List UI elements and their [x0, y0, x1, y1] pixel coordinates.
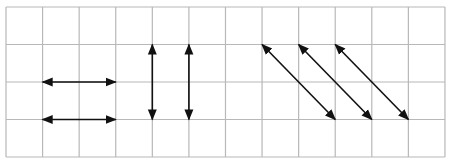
- grid-diagram: [0, 0, 449, 162]
